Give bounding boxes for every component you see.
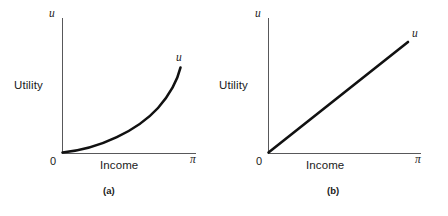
panel-a-y-axis-label: Utility [14, 80, 43, 92]
panel-a [0, 0, 224, 216]
panel-b-y-axis-tip-label: u [255, 8, 261, 20]
panel-a-origin-label: 0 [50, 156, 56, 167]
panel-a-x-axis-tip-label: π [190, 154, 196, 166]
panel-b-utility-line [269, 42, 409, 153]
panel-b-y-axis-label: Utility [219, 80, 248, 92]
panel-b-origin-label: 0 [256, 156, 262, 167]
panel-b-caption: (b) [327, 186, 339, 196]
panel-a-utility-curve [63, 68, 181, 153]
utility-function-figure: Utility Income 0 u π u (a) Utility Incom… [0, 0, 448, 216]
panel-b-x-axis-tip-label: π [415, 154, 421, 166]
panel-a-caption: (a) [103, 186, 115, 196]
panel-b-curve-label: u [412, 28, 418, 40]
panel-a-x-axis-label: Income [100, 160, 138, 172]
panel-b-x-axis-label: Income [306, 160, 344, 172]
panel-a-plot [0, 0, 224, 216]
panel-a-y-axis-tip-label: u [49, 8, 55, 20]
panel-a-curve-label: u [176, 52, 182, 64]
